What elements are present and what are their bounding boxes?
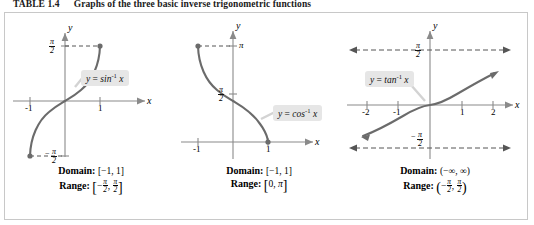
range-line: Range: [0, π] [173, 178, 345, 193]
x-axis-label: x [515, 99, 519, 110]
arctangent-caption: Domain: (−∞, ∞) Range: (−π2, π2) [341, 165, 529, 194]
domain-label: Domain: [226, 165, 263, 176]
curve-arrow-right [490, 71, 499, 79]
figure-title-text: Graphs of the three basic inverse trigon… [74, 0, 311, 9]
graph-panel-arccosine: x y -1 1 π π2 y = cos-1 x Domain: [−1, 1… [173, 13, 345, 221]
x-tick-label-neg2: -2 [362, 107, 370, 117]
y-tick-label-neg-pi-over-2: π2 [51, 148, 57, 165]
x-axis-arrow [505, 102, 513, 109]
domain-line: Domain: [−1, 1] [5, 165, 177, 178]
y-tick-label-neg-sign: − [45, 149, 50, 158]
y-axis-arrow [427, 31, 434, 39]
range-label: Range: [231, 178, 262, 189]
x-axis-arrow [137, 98, 145, 105]
range-line: Range: [−π2, π2] [5, 178, 177, 195]
arcsine-equation-label: y = sin-1 x [81, 70, 129, 86]
range-value: [−π2, π2] [92, 181, 122, 191]
x-axis-label: x [315, 136, 319, 147]
domain-value: (−∞, ∞) [440, 166, 470, 176]
range-line: Range: (−π2, π2) [341, 178, 529, 195]
domain-value: [−1, 1] [266, 166, 292, 176]
figure-title-number: TABLE 1.4 [13, 0, 60, 9]
range-value: (−π2, π2) [436, 181, 466, 191]
domain-value: [−1, 1] [98, 166, 124, 176]
arcsine-plot [5, 13, 177, 163]
asymptote-lower-arrow-right [503, 145, 511, 152]
label-arg: x [313, 109, 317, 119]
asymptote-upper-arrow-right [503, 47, 511, 54]
label-arg: x [119, 74, 123, 84]
y-tick-label-pi: π [239, 40, 244, 50]
label-arg: x [404, 75, 408, 85]
x-tick-label-2: 2 [491, 107, 496, 117]
domain-label: Domain: [58, 165, 95, 176]
range-label: Range: [59, 180, 90, 191]
label-leader [411, 85, 425, 101]
asymptote-upper-arrow-left [349, 47, 357, 54]
label-eq: = [285, 109, 290, 119]
arcsine-caption: Domain: [−1, 1] Range: [−π2, π2] [5, 165, 177, 194]
endpoint-lower [27, 153, 32, 158]
range-value: [0, π] [264, 179, 288, 189]
figure-frame: x y -1 1 π2 − π2 y = sin-1 x Domain: [−1… [4, 12, 528, 220]
y-axis-label: y [68, 22, 72, 33]
y-axis-arrow [62, 33, 69, 41]
x-tick-label-1: 1 [460, 107, 465, 117]
arccosine-caption: Domain: [−1, 1] Range: [0, π] [173, 165, 345, 192]
arccosine-equation-label: y = cos-1 x [273, 105, 322, 121]
domain-line: Domain: (−∞, ∞) [341, 165, 529, 178]
graph-panel-arctangent: x y -2 -1 1 2 π2 − π2 y = tan-1 x Domain… [341, 13, 529, 221]
x-tick-label-neg1: -1 [393, 107, 401, 117]
label-exp: -1 [396, 73, 402, 80]
y-tick-label-neg-sign: − [411, 132, 416, 141]
x-tick-label-neg1: -1 [193, 144, 201, 154]
label-lhs: y [370, 75, 374, 85]
x-tick-label-1: 1 [98, 103, 103, 113]
y-axis-arrow [230, 31, 237, 39]
endpoint-upper [195, 43, 200, 48]
arctangent-equation-label: y = tan-1 x [365, 71, 414, 87]
x-tick-label-1: 1 [266, 144, 271, 154]
figure-title: TABLE 1.4Graphs of the three basic inver… [0, 0, 534, 10]
y-axis-label: y [433, 20, 437, 31]
y-tick-label-pi-over-2: π2 [415, 42, 421, 59]
endpoint-upper [97, 43, 102, 48]
x-tick-label-neg1: -1 [25, 103, 33, 113]
label-fn: sin [100, 74, 111, 84]
label-lhs: y [86, 74, 90, 84]
graph-panel-arcsine: x y -1 1 π2 − π2 y = sin-1 x Domain: [−1… [5, 13, 177, 221]
label-fn: tan [384, 75, 396, 85]
label-eq: = [377, 75, 382, 85]
label-fn: cos [292, 109, 305, 119]
domain-line: Domain: [−1, 1] [173, 165, 345, 178]
y-tick-label-neg-pi-over-2: π2 [417, 131, 423, 148]
domain-label: Domain: [400, 165, 437, 176]
y-tick-label-pi-over-2: π2 [49, 38, 55, 55]
label-eq: = [93, 74, 98, 84]
label-exp: -1 [305, 107, 311, 114]
asymptote-lower-arrow-left [349, 145, 357, 152]
arctangent-plot [341, 13, 529, 163]
x-axis-label: x [147, 95, 151, 106]
label-exp: -1 [111, 72, 117, 79]
label-lhs: y [278, 109, 282, 119]
y-tick-label-pi-over-2: π2 [218, 86, 224, 103]
y-axis-label: y [236, 20, 240, 31]
range-label: Range: [403, 180, 434, 191]
x-axis-arrow [305, 139, 313, 146]
